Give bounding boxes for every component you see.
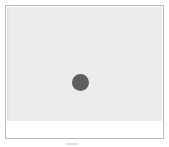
- image-frame[interactable]: [5, 5, 164, 139]
- faint-caption-mark: [66, 143, 78, 145]
- image-area: [7, 7, 162, 121]
- caption-strip: [7, 121, 162, 137]
- circle-marker-icon: [72, 74, 89, 91]
